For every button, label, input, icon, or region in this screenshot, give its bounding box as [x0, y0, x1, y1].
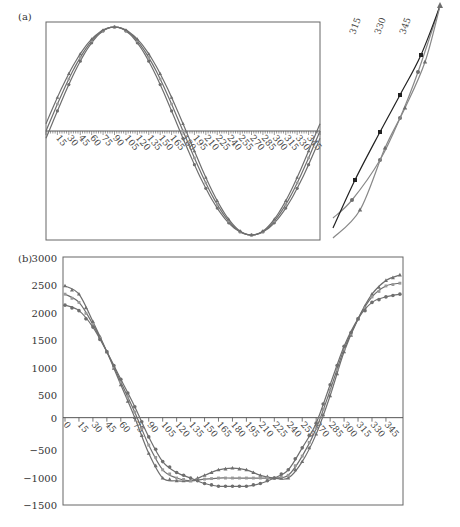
- marker-circle: [98, 338, 102, 342]
- marker-circle: [416, 70, 420, 74]
- x-tick-label: 30: [89, 420, 104, 435]
- marker-circle: [147, 435, 151, 439]
- marker-circle: [112, 364, 116, 368]
- marker-circle: [161, 460, 165, 464]
- marker-square: [252, 477, 255, 480]
- marker-square: [182, 130, 185, 133]
- marker-circle: [168, 465, 172, 469]
- marker-circle: [170, 109, 173, 112]
- y-tick-label: 0: [51, 413, 57, 424]
- marker-circle: [296, 187, 299, 190]
- inset-tick-label: 330: [372, 16, 387, 36]
- marker-circle: [398, 292, 402, 296]
- marker-square: [308, 441, 311, 444]
- marker-square: [170, 103, 173, 106]
- marker-circle: [266, 479, 270, 483]
- marker-square: [307, 157, 310, 160]
- marker-square: [378, 290, 381, 293]
- marker-square: [238, 477, 241, 480]
- marker-triangle: [398, 273, 402, 277]
- line-series-triangle: [65, 275, 400, 481]
- marker-square: [133, 411, 136, 414]
- marker-square: [315, 427, 318, 430]
- panel-a-label: (a): [18, 11, 32, 22]
- marker-triangle: [147, 451, 151, 455]
- marker-square: [159, 78, 162, 81]
- marker-triangle: [168, 477, 172, 481]
- marker-square: [217, 477, 220, 480]
- marker-circle: [370, 301, 374, 305]
- marker-square: [175, 477, 178, 480]
- marker-circle: [126, 391, 130, 395]
- marker-circle: [391, 294, 395, 298]
- marker-circle: [224, 484, 228, 488]
- marker-square: [154, 456, 157, 459]
- marker-square: [378, 130, 382, 134]
- marker-square: [398, 282, 401, 285]
- marker-circle: [175, 471, 179, 475]
- marker-triangle: [84, 306, 88, 310]
- marker-square: [398, 93, 402, 97]
- marker-circle: [231, 484, 235, 488]
- y-tick-label: −500: [30, 445, 57, 456]
- marker-square: [79, 56, 82, 59]
- panel-b-plot: 300025002000150010005000−500−1000−150001…: [23, 253, 403, 511]
- marker-circle: [140, 420, 144, 424]
- x-tick-label: 15: [75, 420, 90, 435]
- marker-circle: [196, 479, 200, 483]
- marker-square: [147, 444, 150, 447]
- marker-circle: [321, 402, 325, 406]
- marker-square: [147, 56, 150, 59]
- inset-line: [333, 6, 440, 228]
- marker-square: [71, 297, 74, 300]
- marker-square: [385, 284, 388, 287]
- marker-circle: [67, 83, 70, 86]
- marker-triangle: [63, 284, 67, 288]
- marker-circle: [203, 482, 207, 486]
- marker-circle: [154, 447, 158, 451]
- inset-line: [333, 6, 440, 218]
- marker-square: [56, 103, 59, 106]
- marker-triangle: [437, 2, 443, 8]
- marker-square: [68, 78, 71, 81]
- line-series-square: [65, 283, 400, 481]
- marker-square: [294, 464, 297, 467]
- inset-tick-label: 315: [347, 16, 362, 36]
- marker-circle: [189, 476, 193, 480]
- x-tick-label: 90: [145, 420, 160, 435]
- marker-square: [84, 312, 87, 315]
- marker-circle: [307, 163, 310, 166]
- marker-circle: [238, 484, 242, 488]
- marker-square: [193, 157, 196, 160]
- marker-square: [168, 472, 171, 475]
- marker-circle: [210, 483, 214, 487]
- marker-circle: [300, 446, 304, 450]
- x-tick-label: 60: [117, 420, 132, 435]
- marker-triangle: [423, 60, 427, 64]
- y-tick-label: 1000: [32, 363, 57, 374]
- marker-square: [391, 283, 394, 286]
- marker-circle: [56, 109, 59, 112]
- marker-circle: [159, 83, 162, 86]
- y-tick-label: −1000: [23, 473, 57, 484]
- marker-circle: [342, 345, 346, 349]
- marker-square: [210, 477, 213, 480]
- y-tick-label: −1500: [23, 500, 57, 511]
- marker-circle: [181, 137, 184, 140]
- panel-b-label: (b): [18, 253, 32, 264]
- marker-circle: [91, 325, 95, 329]
- y-tick-label: 2500: [32, 280, 57, 291]
- marker-square: [182, 478, 185, 481]
- y-tick-label: 2000: [32, 308, 57, 319]
- line-series-circle: [65, 294, 400, 486]
- marker-square: [353, 178, 357, 182]
- y-tick-label: 1500: [32, 335, 57, 346]
- marker-circle: [245, 484, 249, 488]
- marker-square: [419, 53, 423, 57]
- marker-circle: [105, 350, 109, 354]
- marker-circle: [328, 383, 332, 387]
- marker-circle: [77, 309, 81, 313]
- x-tick-label: 105: [159, 420, 178, 440]
- marker-square: [259, 477, 262, 480]
- marker-circle: [286, 468, 290, 472]
